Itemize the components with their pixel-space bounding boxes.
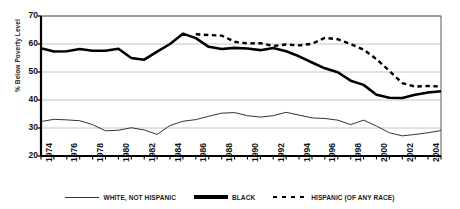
legend-label-1: BLACK xyxy=(232,194,255,201)
legend-swatch-1 xyxy=(194,194,228,200)
chart-legend: WHITE, NOT HISPANICBLACKHISPANIC (OF ANY… xyxy=(0,188,460,206)
legend-item-1: BLACK xyxy=(194,194,255,201)
plot-area xyxy=(0,0,460,209)
plot-frame xyxy=(41,16,441,156)
legend-label-2: HISPANIC (OF ANY RACE) xyxy=(311,194,394,201)
legend-swatch-0 xyxy=(65,194,99,200)
legend-item-0: WHITE, NOT HISPANIC xyxy=(65,194,176,201)
series-line-0 xyxy=(41,112,441,136)
legend-item-2: HISPANIC (OF ANY RACE) xyxy=(273,194,394,201)
legend-swatch-2 xyxy=(273,194,307,200)
series-line-2 xyxy=(196,34,441,86)
series-line-1 xyxy=(41,34,441,98)
poverty-level-line-chart: % Below Poverty Level 706050403020 19741… xyxy=(0,0,460,209)
legend-label-0: WHITE, NOT HISPANIC xyxy=(103,194,176,201)
